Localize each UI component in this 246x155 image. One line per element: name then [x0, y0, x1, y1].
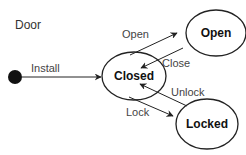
initial-state-node: [8, 70, 22, 84]
transition-lock-label: Lock: [126, 107, 149, 118]
transition-close-label: Close: [162, 58, 190, 69]
transition-install-label: Install: [31, 63, 60, 74]
state-locked-label: Locked: [186, 118, 228, 130]
transition-unlock-label: Unlock: [171, 87, 205, 98]
diagram-title: Door: [15, 19, 41, 31]
state-open-label: Open: [201, 27, 232, 39]
state-closed-label: Closed: [114, 70, 154, 82]
transition-open-label: Open: [122, 29, 149, 40]
